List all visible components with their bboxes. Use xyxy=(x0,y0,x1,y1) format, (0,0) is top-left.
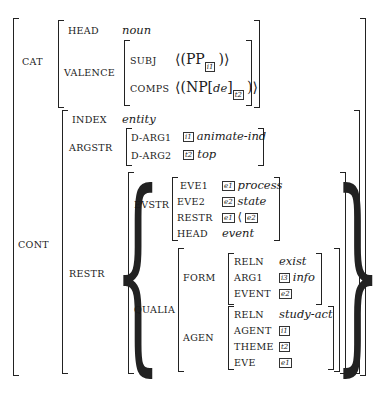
agen-reln-value: study-act xyxy=(279,309,333,321)
cont-label: CONT xyxy=(18,240,49,250)
agen-agent-value: i1 xyxy=(279,325,293,337)
eve2-value: e2state xyxy=(222,196,266,208)
agen-eve-value: e1 xyxy=(279,357,295,369)
tag-i1: i1 xyxy=(183,132,194,142)
agen-agent-label: AGENT xyxy=(234,326,272,336)
index-label: INDEX xyxy=(72,115,107,125)
valence-label: VALENCE xyxy=(64,68,115,78)
restr-label: RESTR xyxy=(69,269,105,279)
agen-label: AGEN xyxy=(183,333,214,343)
form-arg1-value: i3info xyxy=(279,272,315,284)
form-event-value: e2 xyxy=(279,288,295,300)
form-event-label: EVENT xyxy=(234,289,271,299)
evstr-restr-label: RESTR xyxy=(177,213,213,223)
tag-i1: i1 xyxy=(279,326,290,336)
subj-pp: ⟨(PP xyxy=(175,51,205,67)
form-bracket-right xyxy=(316,253,322,305)
tag-t2: t2 xyxy=(183,150,194,160)
form-arg1-label: ARG1 xyxy=(234,273,263,283)
valence-bracket-left xyxy=(124,40,130,106)
argstr-label: ARGSTR xyxy=(69,143,112,153)
tag-t2: t2 xyxy=(279,342,290,352)
eve2-type: state xyxy=(238,194,267,208)
tag-e1: e1 xyxy=(222,213,235,223)
subj-close: )⟩ xyxy=(218,51,229,67)
darg2-value: t2top xyxy=(183,149,216,161)
eve1-label: EVE1 xyxy=(180,181,208,191)
qualia-bracket-right xyxy=(334,248,340,372)
outer-bracket-left xyxy=(13,18,19,376)
index-value: entity xyxy=(122,114,156,126)
agen-theme-value: t2 xyxy=(279,341,293,353)
darg2-type: top xyxy=(197,147,216,161)
darg1-type: animate-ind xyxy=(197,129,266,143)
cont-bracket-left xyxy=(62,110,68,374)
restr-inner-bracket-right xyxy=(340,172,346,374)
evstr-head-label: HEAD xyxy=(177,229,208,239)
eve2-label: EVE2 xyxy=(177,197,205,207)
tag-e2: e2 xyxy=(279,289,292,299)
tag-e2: e2 xyxy=(222,197,235,207)
tag-e1: e1 xyxy=(279,358,292,368)
form-reln-value: exist xyxy=(279,256,307,268)
form-label: FORM xyxy=(183,273,215,283)
precedence-op: ⟨ xyxy=(238,210,243,224)
evstr-restr-value: e1⟨e2 xyxy=(222,212,261,224)
agen-theme-label: THEME xyxy=(234,342,274,352)
agen-eve-label: EVE xyxy=(234,358,256,368)
tag-i1: i1 xyxy=(205,62,216,72)
qualia-bracket-left xyxy=(178,248,184,372)
comps-de: de xyxy=(213,81,227,95)
cat-label: CAT xyxy=(22,57,43,67)
comps-close: )⟩ xyxy=(247,79,258,95)
evstr-head-value: event xyxy=(222,228,254,240)
darg1-label: D-ARG1 xyxy=(131,133,171,143)
evstr-label: EVSTR xyxy=(134,200,169,210)
comps-value: ⟨(NP[de]t2)⟩ xyxy=(175,80,258,100)
agen-reln-label: RELN xyxy=(234,310,264,320)
eve1-type: process xyxy=(238,178,283,192)
eve1-value: e1process xyxy=(222,180,282,192)
comps-label: COMPS xyxy=(130,84,169,94)
tag-e2: e2 xyxy=(245,213,258,223)
arg1-type: info xyxy=(293,270,315,284)
darg1-value: i1animate-ind xyxy=(183,131,266,143)
tag-e1: e1 xyxy=(222,181,235,191)
subj-value: ⟨(PPi1)⟩ xyxy=(175,52,229,72)
tag-t2: t2 xyxy=(233,90,244,100)
subj-label: SUBJ xyxy=(130,56,157,66)
cat-bracket-left xyxy=(58,20,64,108)
qualia-label: QUALIA xyxy=(134,305,175,315)
head-label: HEAD xyxy=(68,26,99,36)
comps-np: ⟨(NP[ xyxy=(175,79,213,95)
restr-brace-left: { xyxy=(114,163,162,377)
tag-i3: i3 xyxy=(279,273,290,283)
form-reln-label: RELN xyxy=(234,257,264,267)
head-value: noun xyxy=(122,25,151,37)
